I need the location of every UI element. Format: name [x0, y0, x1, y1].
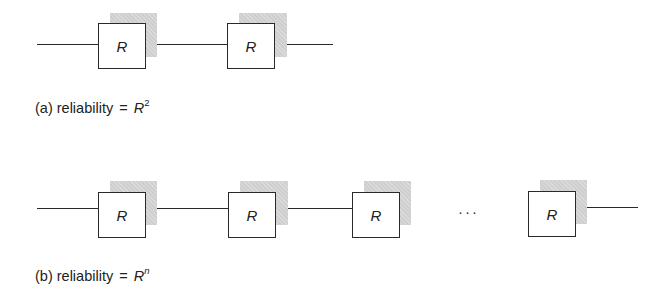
- wire-out-b: [587, 207, 638, 208]
- reliability-block-a2: R: [227, 23, 275, 69]
- reliability-block-b2: R: [228, 192, 276, 238]
- caption-a-exponent: 2: [144, 97, 149, 108]
- caption-b-variable: R: [134, 268, 144, 284]
- caption-b: (b) reliability=Rn: [35, 266, 149, 284]
- caption-b-prefix: (b) reliability: [35, 268, 113, 284]
- block-label: R: [246, 38, 257, 55]
- wire-in-a: [37, 44, 98, 45]
- wire-out-a: [287, 44, 333, 45]
- equals-sign: =: [119, 268, 127, 284]
- reliability-block-a1: R: [98, 23, 146, 69]
- block-label: R: [547, 206, 558, 223]
- equals-sign: =: [119, 100, 127, 116]
- block-label: R: [117, 207, 128, 224]
- block-label: R: [371, 207, 382, 224]
- wire-in-b: [37, 208, 98, 209]
- caption-a: (a) reliability=R2: [35, 98, 149, 116]
- caption-a-prefix: (a) reliability: [35, 100, 113, 116]
- reliability-block-b3: R: [352, 192, 400, 238]
- wire-b2-b3: [288, 208, 352, 209]
- wire-b1-b2: [157, 208, 228, 209]
- block-label: R: [247, 207, 258, 224]
- reliability-block-b1: R: [98, 192, 146, 238]
- caption-a-variable: R: [134, 100, 144, 116]
- reliability-block-bn: R: [528, 191, 576, 237]
- caption-b-exponent: n: [144, 265, 149, 276]
- ellipsis: ···: [458, 203, 479, 220]
- block-label: R: [117, 38, 128, 55]
- wire-a1-a2: [157, 44, 227, 45]
